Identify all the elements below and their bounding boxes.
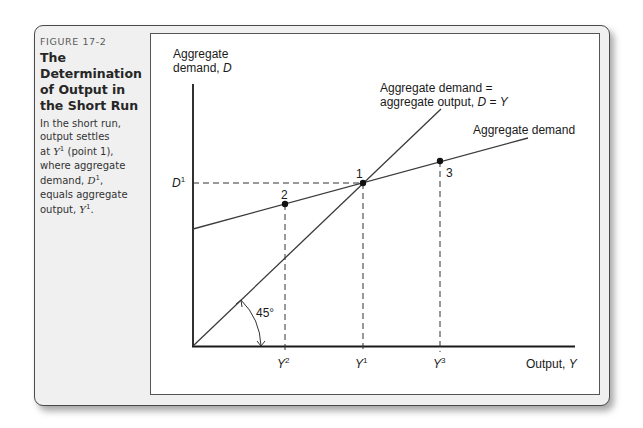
- x-axis-label: Output, Y: [526, 357, 578, 371]
- guide-lines: [193, 161, 440, 352]
- d-equals-y-label-2: aggregate output, D = Y: [380, 95, 509, 109]
- y2-tick-label: Y2: [277, 356, 290, 371]
- y-axis-label-1: Aggregate: [173, 47, 229, 61]
- point-1-label: 1: [356, 167, 363, 181]
- line-d-equals-y: [193, 109, 441, 346]
- dy-var: Y: [500, 95, 509, 109]
- tick-var: D: [172, 176, 181, 190]
- y-axis-label-2: demand, D: [173, 61, 232, 75]
- aggregate-demand-label: Aggregate demand: [473, 123, 575, 137]
- chart-svg: Aggregate demand, D Aggregate demand = a…: [0, 0, 643, 428]
- y1-tick-label: Y1: [355, 356, 368, 371]
- x-axis-text: Output,: [526, 357, 569, 371]
- y-axis-text: demand,: [173, 61, 223, 75]
- y3-tick-label: Y3: [433, 356, 446, 371]
- y-axis-var: D: [223, 61, 232, 75]
- d-equals-y-label-1: Aggregate demand =: [380, 81, 492, 95]
- arc-arrow-top-icon: [236, 300, 242, 307]
- dy-text: aggregate output,: [380, 95, 477, 109]
- point-3: [437, 158, 443, 164]
- tick-sup: 1: [363, 356, 368, 365]
- point-2-label: 2: [281, 188, 288, 202]
- dy-var: D: [477, 95, 486, 109]
- point-3-label: 3: [446, 166, 453, 180]
- x-axis-var: Y: [569, 357, 578, 371]
- angle-label: 45°: [256, 306, 274, 320]
- tick-sup: 2: [285, 356, 290, 365]
- tick-sup: 3: [441, 356, 446, 365]
- d1-tick-label: D1: [172, 175, 186, 190]
- dy-eq: =: [486, 95, 500, 109]
- tick-sup: 1: [181, 175, 186, 184]
